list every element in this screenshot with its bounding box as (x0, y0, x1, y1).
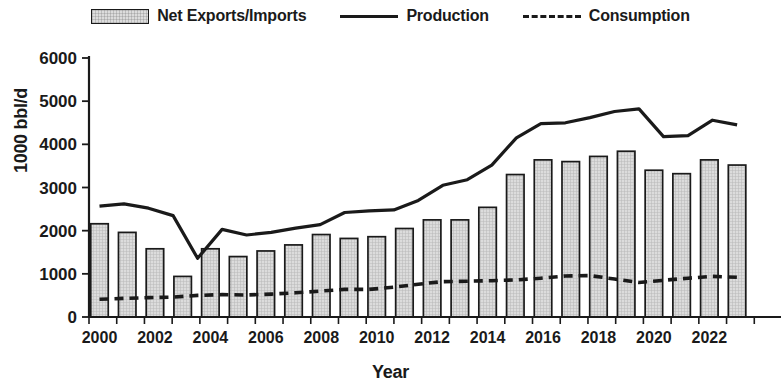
svg-text:2018: 2018 (581, 329, 617, 346)
x-axis-title: Year (0, 362, 781, 383)
svg-text:2020: 2020 (636, 329, 672, 346)
legend-item-consumption: Consumption (523, 8, 690, 24)
legend-label-net-exports-imports: Net Exports/Imports (157, 8, 306, 24)
chart-figure: Net Exports/Imports Production Consumpti… (0, 0, 781, 387)
solid-line-icon (340, 15, 398, 18)
svg-text:2010: 2010 (359, 329, 395, 346)
svg-text:0: 0 (68, 308, 77, 327)
dashed-line-icon (523, 15, 581, 18)
y-axis-title: 1000 bbl/d (11, 51, 32, 211)
bar-swatch-icon (91, 9, 149, 24)
legend-label-consumption: Consumption (589, 8, 690, 24)
svg-text:6000: 6000 (39, 49, 77, 68)
svg-text:2012: 2012 (414, 329, 450, 346)
svg-text:2004: 2004 (193, 329, 229, 346)
svg-text:3000: 3000 (39, 179, 77, 198)
legend-label-production: Production (406, 8, 488, 24)
svg-text:2002: 2002 (137, 329, 173, 346)
svg-text:2006: 2006 (248, 329, 284, 346)
chart-canvas: 6000500040003000200010000 20002002200420… (0, 32, 781, 362)
svg-text:1000: 1000 (39, 265, 77, 284)
line-series (100, 109, 738, 299)
svg-text:2022: 2022 (692, 329, 728, 346)
plot-area: 1000 bbl/d Year 600050004000300020001000… (0, 32, 781, 387)
bar-series (91, 151, 746, 317)
svg-text:2000: 2000 (82, 329, 118, 346)
legend-item-net-exports-imports: Net Exports/Imports (91, 8, 306, 24)
svg-text:2008: 2008 (303, 329, 339, 346)
x-axis-ticks: 2000200220042006200820102012201420162018… (82, 317, 755, 346)
svg-text:2016: 2016 (525, 329, 561, 346)
svg-text:5000: 5000 (39, 92, 77, 111)
svg-text:2014: 2014 (470, 329, 506, 346)
legend-item-production: Production (340, 8, 488, 24)
y-axis-ticks: 6000500040003000200010000 (39, 49, 89, 327)
svg-text:2000: 2000 (39, 222, 77, 241)
chart-legend: Net Exports/Imports Production Consumpti… (0, 0, 781, 32)
svg-text:4000: 4000 (39, 135, 77, 154)
